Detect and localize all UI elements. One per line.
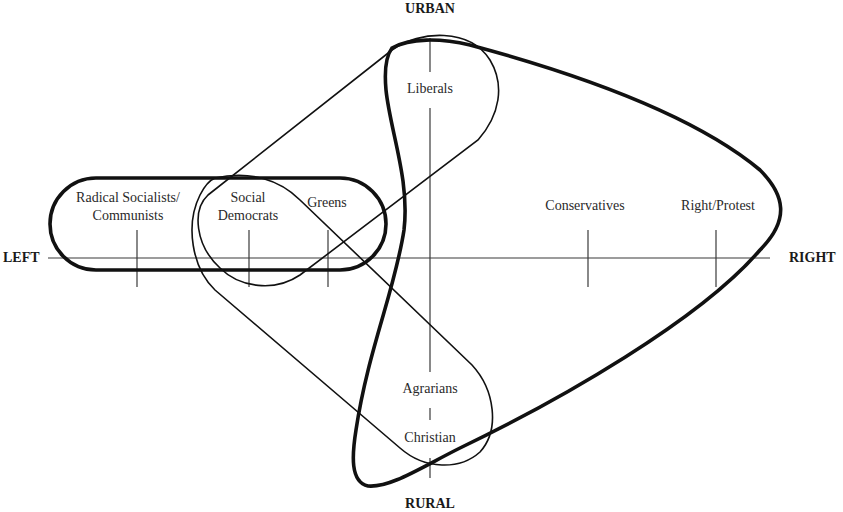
urban-diagonal-outline: [198, 35, 498, 285]
right-label: RIGHT: [789, 250, 836, 265]
social-democrats-label-line2: Democrats: [218, 208, 279, 223]
agrarians-label: Agrarians: [402, 381, 457, 396]
radical-label-line2: Communists: [93, 208, 164, 223]
party-space-diagram: URBAN RURAL LEFT RIGHT Radical Socialist…: [0, 0, 843, 512]
christian-label: Christian: [404, 430, 455, 445]
rural-label: RURAL: [405, 496, 455, 511]
left-label: LEFT: [3, 250, 40, 265]
radical-label-line1: Radical Socialists/: [76, 190, 180, 205]
liberals-label: Liberals: [407, 81, 453, 96]
greens-label: Greens: [307, 195, 347, 210]
conservatives-label: Conservatives: [545, 198, 624, 213]
right-protest-label: Right/Protest: [681, 198, 755, 213]
urban-label: URBAN: [405, 1, 455, 16]
social-democrats-label-line1: Social: [231, 190, 266, 205]
